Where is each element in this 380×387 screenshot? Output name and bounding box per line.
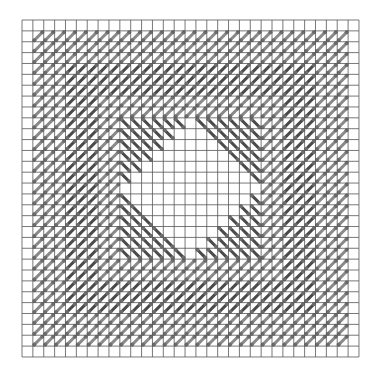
stitch-layer xyxy=(34,32,346,344)
stitch-pattern-diagram xyxy=(0,0,380,387)
